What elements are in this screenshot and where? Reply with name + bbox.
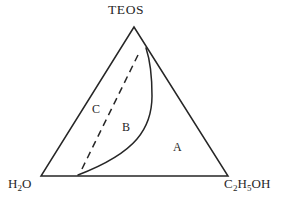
ternary-plot-area: [0, 0, 285, 203]
ethanol-text-h: H: [237, 176, 247, 191]
phase-boundary-dashed-line: [80, 55, 138, 173]
teos-text: TEOS: [108, 2, 144, 17]
region-label-c: C: [92, 102, 100, 117]
vertex-label-water: H2O: [8, 176, 32, 193]
region-label-b: B: [122, 120, 130, 135]
vertex-label-ethanol: C2H5OH: [224, 176, 271, 193]
triangle-outline: [41, 27, 228, 176]
vertex-label-teos: TEOS: [108, 2, 144, 18]
triangle-edges: [41, 27, 228, 176]
water-text-h: H: [8, 176, 18, 191]
ethanol-text-c: C: [224, 176, 233, 191]
ternary-diagram: TEOS H2O C2H5OH A B C: [0, 0, 285, 203]
ethanol-text-oh: OH: [251, 176, 270, 191]
water-text-o: O: [22, 176, 32, 191]
region-label-a: A: [173, 140, 182, 155]
